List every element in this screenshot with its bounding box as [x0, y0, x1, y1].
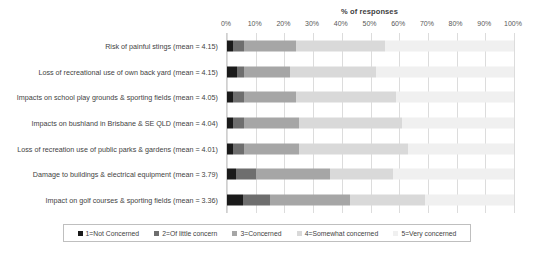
- bar-segment: [385, 40, 514, 51]
- legend-item[interactable]: 1=Not Concerned: [78, 230, 139, 237]
- chart-bar-row: [227, 187, 514, 213]
- legend-item[interactable]: 4=Somewhat concerned: [297, 230, 379, 237]
- bar-segment: [244, 92, 296, 103]
- legend-label: 1=Not Concerned: [86, 230, 139, 237]
- bar-segment: [270, 195, 350, 206]
- plot-area: [226, 33, 514, 213]
- stacked-bar: [227, 40, 514, 51]
- y-axis-label: Impacts on school play grounds & sportin…: [0, 93, 218, 102]
- bar-segment: [244, 66, 290, 77]
- y-axis-label: Impact on golf courses & sporting fields…: [0, 196, 218, 205]
- chart-bar-row: [227, 33, 514, 59]
- stacked-bar: [227, 169, 514, 180]
- bar-segment: [244, 117, 299, 128]
- bar-segment: [233, 117, 244, 128]
- bar-segment: [244, 40, 296, 51]
- x-tick-label: 70%: [420, 20, 434, 27]
- bar-segment: [233, 40, 244, 51]
- bar-segment: [227, 169, 236, 180]
- stacked-bar: [227, 195, 514, 206]
- bar-segment: [227, 66, 237, 77]
- x-axis-tick-labels: 0%10%20%30%40%50%60%70%80%90%100%: [226, 20, 513, 31]
- legend-swatch-icon: [297, 231, 302, 236]
- x-tick-label: 80%: [449, 20, 463, 27]
- bar-segment: [244, 143, 299, 154]
- x-tick-label: 0%: [221, 20, 231, 27]
- gridline: [514, 33, 515, 213]
- legend-swatch-icon: [232, 231, 237, 236]
- stacked-bar-chart: % of responses 0%10%20%30%40%50%60%70%80…: [0, 0, 533, 255]
- legend-item[interactable]: 3=Concerned: [232, 230, 281, 237]
- bar-segment: [299, 143, 408, 154]
- legend-swatch-icon: [393, 231, 398, 236]
- x-tick-label: 50%: [362, 20, 376, 27]
- bar-segment: [237, 66, 244, 77]
- bar-segment: [393, 169, 514, 180]
- x-tick-label: 10%: [248, 20, 262, 27]
- x-tick-label: 30%: [305, 20, 319, 27]
- x-tick-label: 40%: [334, 20, 348, 27]
- y-axis-label: Risk of painful stings (mean = 4.15): [0, 41, 218, 50]
- bar-segment: [350, 195, 425, 206]
- stacked-bar: [227, 92, 514, 103]
- legend-label: 3=Concerned: [240, 230, 281, 237]
- bar-segment: [233, 143, 244, 154]
- legend-swatch-icon: [154, 231, 159, 236]
- bar-segment: [236, 169, 256, 180]
- bar-segment: [408, 143, 514, 154]
- x-tick-label: 90%: [477, 20, 491, 27]
- legend-label: 2=Of little concern: [162, 230, 217, 237]
- x-tick-label: 100%: [504, 20, 522, 27]
- chart-bar-row: [227, 110, 514, 136]
- y-axis-label: Impacts on bushland in Brisbane & SE QLD…: [0, 119, 218, 128]
- legend-item[interactable]: 5=Very concerned: [393, 230, 456, 237]
- stacked-bar: [227, 66, 514, 77]
- bar-segment: [376, 66, 514, 77]
- y-axis-label: Loss of recreational use of own back yar…: [0, 67, 218, 76]
- bar-segment: [296, 92, 396, 103]
- bar-segment: [299, 117, 402, 128]
- x-tick-label: 20%: [276, 20, 290, 27]
- stacked-bar: [227, 143, 514, 154]
- chart-bar-row: [227, 84, 514, 110]
- y-axis-label: Loss of recreation use of public parks &…: [0, 144, 218, 153]
- x-axis-title: % of responses: [226, 7, 513, 16]
- legend-label: 4=Somewhat concerned: [305, 230, 379, 237]
- y-axis-category-labels: Risk of painful stings (mean = 4.15)Loss…: [0, 33, 222, 213]
- chart-bar-row: [227, 59, 514, 85]
- bar-segment: [290, 66, 376, 77]
- chart-bar-row: [227, 162, 514, 188]
- chart-bar-row: [227, 136, 514, 162]
- bar-segment: [233, 92, 244, 103]
- bar-segment: [296, 40, 385, 51]
- bar-segment: [425, 195, 514, 206]
- bar-segment: [256, 169, 331, 180]
- stacked-bar: [227, 117, 514, 128]
- bar-segment: [227, 195, 243, 206]
- bar-segment: [402, 117, 514, 128]
- y-axis-label: Damage to buildings & electrical equipme…: [0, 170, 218, 179]
- bar-segment: [396, 92, 514, 103]
- legend-label: 5=Very concerned: [401, 230, 456, 237]
- bar-segment: [330, 169, 393, 180]
- bar-segment: [243, 195, 270, 206]
- x-tick-label: 60%: [391, 20, 405, 27]
- legend-item[interactable]: 2=Of little concern: [154, 230, 217, 237]
- chart-legend: 1=Not Concerned2=Of little concern3=Conc…: [63, 224, 471, 242]
- legend-swatch-icon: [78, 231, 83, 236]
